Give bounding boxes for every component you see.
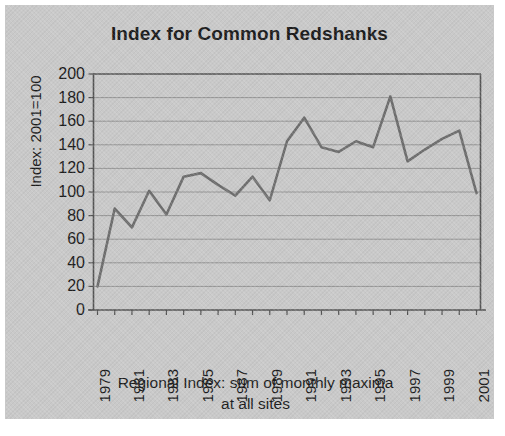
chart-title: Index for Common Redshanks — [5, 23, 494, 45]
y-tick-label: 80 — [67, 208, 85, 224]
y-tick-label: 200 — [58, 66, 85, 82]
line-chart-svg — [88, 73, 486, 315]
plot-area — [88, 73, 486, 315]
y-tick-label: 180 — [58, 90, 85, 106]
chart-figure: Index for Common Redshanks Index: 2001=1… — [5, 5, 494, 419]
y-tick-label: 100 — [58, 184, 85, 200]
y-tick-label: 60 — [67, 231, 85, 247]
x-axis-caption: Regional Index: sum of monthly maxima at… — [35, 373, 476, 415]
x-tick-label: 2001 — [474, 369, 491, 402]
y-tick-label: 40 — [67, 255, 85, 271]
y-tick-label: 120 — [58, 160, 85, 176]
y-tick-label: 20 — [67, 278, 85, 294]
x-axis-caption-line-2: at all sites — [35, 394, 476, 415]
data-series-line — [98, 96, 477, 286]
x-axis-caption-line-1: Regional Index: sum of monthly maxima — [35, 373, 476, 394]
y-tick-label: 160 — [58, 113, 85, 129]
y-axis-tick-labels: 020406080100120140160180200 — [40, 73, 85, 315]
y-tick-label: 140 — [58, 137, 85, 153]
x-axis-tick-labels: 1979198119831985198719891991199319951997… — [88, 317, 486, 373]
x-axis-tick-marks — [98, 310, 477, 315]
y-tick-label: 0 — [76, 302, 85, 318]
